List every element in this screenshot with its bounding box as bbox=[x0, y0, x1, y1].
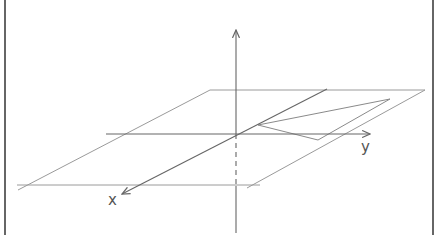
y-axis-label: y bbox=[361, 138, 370, 156]
x-axis-label: x bbox=[108, 191, 117, 209]
diagram-canvas: y x bbox=[0, 0, 435, 235]
x-axis bbox=[122, 89, 327, 194]
plane-left-edge bbox=[18, 90, 210, 190]
plane-right-edge bbox=[247, 90, 425, 188]
coordinate-diagram: y x bbox=[0, 0, 435, 235]
